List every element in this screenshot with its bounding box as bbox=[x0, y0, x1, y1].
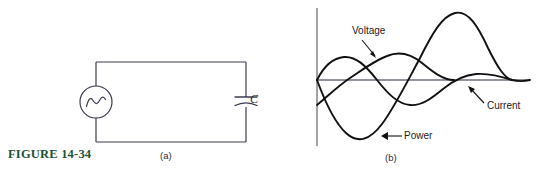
waveform-chart bbox=[280, 0, 547, 179]
current-leader-line bbox=[468, 86, 484, 103]
power-leader-line bbox=[381, 132, 402, 140]
figure-number: FIGURE 14-34 bbox=[8, 147, 91, 162]
ac-source-circle bbox=[80, 86, 112, 118]
voltage-leader-line bbox=[362, 40, 376, 58]
sine-wave-icon bbox=[87, 97, 106, 106]
power-arrow-icon bbox=[381, 132, 388, 140]
voltage-arrow-icon bbox=[370, 51, 376, 58]
power-curve-label: Power bbox=[404, 131, 432, 141]
panel-b-waveforms: Voltage Current Power (b) bbox=[280, 0, 547, 179]
panel-a-caption: (a) bbox=[160, 150, 172, 161]
panel-a-circuit: C (a) FIGURE 14-34 bbox=[0, 0, 280, 179]
circuit-wires bbox=[96, 62, 246, 142]
figure-screenshot: C (a) FIGURE 14-34 bbox=[0, 0, 547, 179]
capacitor-label: C bbox=[250, 93, 258, 105]
panel-b-caption: (b) bbox=[385, 152, 397, 163]
current-curve-label: Current bbox=[487, 101, 520, 111]
ac-source-symbol bbox=[80, 86, 112, 118]
voltage-curve-label: Voltage bbox=[352, 26, 385, 36]
